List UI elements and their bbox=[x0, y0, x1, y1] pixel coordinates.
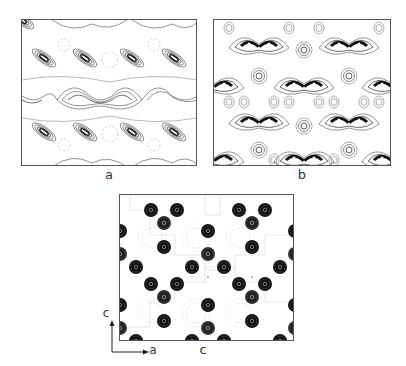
axis-label-a: a bbox=[148, 343, 158, 357]
arrow-up-icon bbox=[110, 320, 115, 326]
panel-label-c: c bbox=[193, 342, 213, 357]
contour-panel-a bbox=[21, 19, 197, 166]
panel-label-a: a bbox=[99, 167, 119, 182]
contour-map-b bbox=[214, 20, 391, 166]
contour-panel-b bbox=[213, 19, 391, 166]
axis-label-c: c bbox=[101, 306, 111, 320]
axis-arrows bbox=[104, 318, 154, 358]
contour-map-a bbox=[22, 20, 197, 166]
panel-label-b: b bbox=[292, 167, 312, 182]
